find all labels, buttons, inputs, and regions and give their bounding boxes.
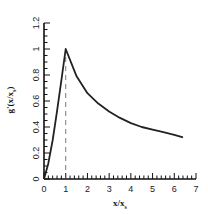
y-tick-label: 0.4: [31, 121, 41, 134]
x-tick-label: 6: [172, 184, 177, 194]
y-axis-title: g'(x/xs): [5, 87, 17, 114]
plot-area: [44, 49, 183, 179]
y-tick-label: 1.2: [31, 17, 41, 30]
series-line: [44, 49, 183, 179]
x-tick-label: 7: [193, 184, 198, 194]
y-tick-label: 0: [31, 176, 41, 181]
y-tick-label: 0.8: [31, 69, 41, 82]
chart: 0123456700.20.40.60.811.2 x/xs g'(x/xs): [0, 0, 208, 214]
y-tick-label: 1: [31, 46, 41, 51]
axes: 0123456700.20.40.60.811.2: [31, 17, 199, 194]
x-tick-label: 0: [41, 184, 46, 194]
x-tick-label: 4: [128, 184, 133, 194]
x-tick-label: 5: [150, 184, 155, 194]
y-tick-label: 0.2: [31, 147, 41, 160]
x-tick-label: 3: [107, 184, 112, 194]
y-tick-label: 0.6: [31, 95, 41, 108]
x-tick-label: 2: [85, 184, 90, 194]
x-tick-label: 1: [63, 184, 68, 194]
x-axis-title: x/xs: [113, 198, 128, 210]
